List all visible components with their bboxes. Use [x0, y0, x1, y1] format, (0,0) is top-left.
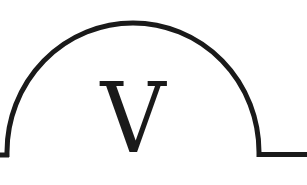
symbol-letter: V	[97, 70, 169, 166]
voltmeter-symbol-diagram: V	[0, 0, 307, 185]
